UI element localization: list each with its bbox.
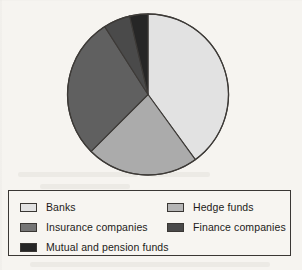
bleedthrough-artifact bbox=[30, 262, 270, 267]
legend-item-banks: Banks bbox=[20, 198, 169, 216]
legend-item-hedge-funds: Hedge funds bbox=[167, 198, 286, 216]
legend-item-insurance-companies: Insurance companies bbox=[20, 218, 169, 236]
legend-label-banks: Banks bbox=[46, 202, 76, 213]
pie-chart-figure: Banks Insurance companies Mutual and pen… bbox=[0, 0, 302, 270]
legend-item-mutual-and-pension-funds: Mutual and pension funds bbox=[20, 238, 169, 256]
pie-chart-svg bbox=[0, 0, 302, 186]
legend-column-right: Hedge funds Finance companies bbox=[167, 198, 286, 238]
legend-label-mutual-and-pension-funds: Mutual and pension funds bbox=[46, 242, 169, 253]
legend-label-finance-companies: Finance companies bbox=[193, 222, 286, 233]
pie-slices-group bbox=[68, 14, 229, 175]
legend-swatch-finance-companies bbox=[167, 223, 184, 232]
legend: Banks Insurance companies Mutual and pen… bbox=[8, 190, 291, 256]
legend-swatch-insurance-companies bbox=[20, 223, 37, 232]
legend-swatch-hedge-funds bbox=[167, 203, 184, 212]
legend-column-left: Banks Insurance companies Mutual and pen… bbox=[20, 198, 169, 258]
pie-chart-area bbox=[0, 0, 302, 186]
legend-item-finance-companies: Finance companies bbox=[167, 218, 286, 236]
legend-label-hedge-funds: Hedge funds bbox=[193, 202, 254, 213]
legend-swatch-mutual-and-pension-funds bbox=[20, 243, 37, 252]
legend-label-insurance-companies: Insurance companies bbox=[46, 222, 148, 233]
legend-swatch-banks bbox=[20, 203, 37, 212]
